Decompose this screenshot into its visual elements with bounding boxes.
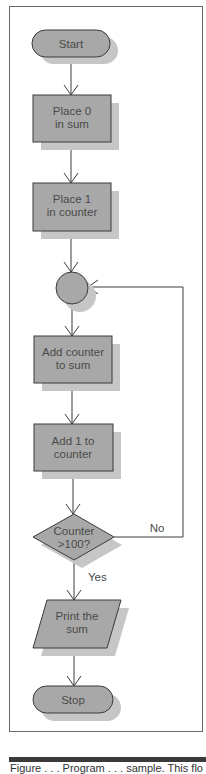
edge-decision-no-loop [88, 287, 183, 537]
node-stop: Stop [33, 686, 121, 721]
node-label-line1: Add 1 to [52, 435, 95, 447]
node-label: Stop [61, 694, 85, 706]
node-init-counter: Place 1 in counter [33, 183, 119, 239]
edge-label-yes: Yes [88, 571, 107, 583]
node-label-line1: Add counter [42, 346, 104, 358]
node-increment: Add 1 to counter [34, 424, 121, 479]
node-start: Start [32, 30, 118, 64]
node-label-line1: Print the [56, 610, 99, 622]
node-add-counter: Add counter to sum [34, 336, 120, 391]
node-label-line1: Place 0 [53, 105, 91, 117]
node-label: Start [59, 38, 84, 50]
node-label-line2: sum [66, 623, 88, 635]
figure-caption: Figure . . . Program . . . sample. This … [10, 762, 203, 774]
edge-label-no: No [150, 522, 165, 534]
node-print: Print the sum [33, 600, 129, 656]
node-label-line2: in sum [55, 118, 89, 130]
node-label-line1: Counter [54, 525, 95, 537]
node-connector [56, 272, 96, 312]
node-init-sum: Place 0 in sum [33, 95, 119, 150]
node-label-line2: counter [54, 448, 93, 460]
node-label-line1: Place 1 [53, 193, 91, 205]
node-label-line2: in counter [47, 206, 98, 218]
node-label-line2: >100? [58, 538, 90, 550]
node-decision: Counter >100? [33, 514, 122, 568]
node-label-line2: to sum [56, 359, 91, 371]
